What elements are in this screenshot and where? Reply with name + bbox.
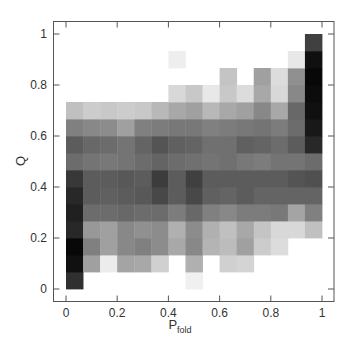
heatmap-cell (168, 119, 185, 136)
heatmap-cell (288, 221, 305, 238)
heatmap-cell (83, 153, 100, 170)
heatmap-cell (185, 221, 202, 238)
heatmap-cell (288, 102, 305, 119)
heatmap-cell (66, 102, 83, 119)
heatmap-cell (254, 153, 271, 170)
heatmap-cell (305, 187, 322, 204)
y-axis-label: Q (13, 156, 28, 166)
heatmap-cell (271, 221, 288, 238)
heatmap-cells (66, 34, 322, 289)
heatmap-cell (168, 51, 185, 68)
heatmap-cell (83, 238, 100, 255)
heatmap-cell (117, 204, 134, 221)
heatmap-cell (288, 153, 305, 170)
heatmap-cell (203, 85, 220, 102)
y-tick-label: 0 (40, 282, 47, 296)
heatmap-cell (134, 102, 151, 119)
heatmap-cell (305, 34, 322, 51)
heatmap-cell (168, 102, 185, 119)
heatmap-cell (83, 119, 100, 136)
heatmap-cell (305, 51, 322, 68)
heatmap-cell (100, 153, 117, 170)
heatmap-cell (254, 119, 271, 136)
heatmap-cell (117, 170, 134, 187)
heatmap-cell (185, 187, 202, 204)
heatmap-cell (271, 119, 288, 136)
heatmap-chart: 00.20.40.60.81 00.20.40.60.81 Pfold Q (0, 0, 354, 350)
heatmap-cell (220, 85, 237, 102)
heatmap-cell (185, 170, 202, 187)
heatmap-cell (220, 170, 237, 187)
heatmap-cell (271, 153, 288, 170)
heatmap-cell (254, 204, 271, 221)
heatmap-cell (203, 187, 220, 204)
heatmap-cell (271, 238, 288, 255)
heatmap-cell (288, 68, 305, 85)
heatmap-cell (305, 85, 322, 102)
heatmap-cell (168, 221, 185, 238)
heatmap-cell (288, 170, 305, 187)
heatmap-cell (305, 119, 322, 136)
heatmap-cell (66, 170, 83, 187)
heatmap-cell (66, 255, 83, 272)
heatmap-cell (83, 187, 100, 204)
heatmap-cell (151, 136, 168, 153)
heatmap-cell (66, 153, 83, 170)
heatmap-cell (168, 136, 185, 153)
heatmap-cell (254, 136, 271, 153)
heatmap-cell (151, 153, 168, 170)
heatmap-cell (117, 119, 134, 136)
heatmap-cell (203, 221, 220, 238)
heatmap-cell (168, 187, 185, 204)
heatmap-cell (185, 272, 202, 289)
heatmap-cell (220, 238, 237, 255)
heatmap-cell (254, 238, 271, 255)
heatmap-cell (185, 255, 202, 272)
heatmap-cell (305, 204, 322, 221)
heatmap-cell (203, 238, 220, 255)
heatmap-cell (151, 238, 168, 255)
heatmap-cell (254, 187, 271, 204)
heatmap-cell (288, 51, 305, 68)
heatmap-cell (100, 170, 117, 187)
heatmap-cell (100, 255, 117, 272)
heatmap-cell (83, 204, 100, 221)
heatmap-cell (237, 238, 254, 255)
heatmap-cell (237, 221, 254, 238)
heatmap-cell (185, 136, 202, 153)
y-tick-label: 0.2 (30, 231, 47, 245)
heatmap-cell (83, 221, 100, 238)
heatmap-cell (237, 119, 254, 136)
heatmap-cell (117, 187, 134, 204)
heatmap-cell (305, 221, 322, 238)
heatmap-cell (254, 102, 271, 119)
heatmap-cell (220, 187, 237, 204)
heatmap-cell (271, 136, 288, 153)
heatmap-cell (185, 204, 202, 221)
heatmap-cell (168, 204, 185, 221)
heatmap-cell (220, 68, 237, 85)
heatmap-cell (185, 153, 202, 170)
heatmap-cell (220, 136, 237, 153)
heatmap-cell (66, 119, 83, 136)
heatmap-cell (134, 221, 151, 238)
heatmap-cell (168, 238, 185, 255)
heatmap-cell (100, 119, 117, 136)
heatmap-cell (117, 136, 134, 153)
heatmap-cell (66, 238, 83, 255)
x-tick-label: 0.6 (211, 306, 228, 320)
heatmap-cell (254, 85, 271, 102)
heatmap-cell (305, 68, 322, 85)
heatmap-cell (134, 119, 151, 136)
heatmap-cell (271, 170, 288, 187)
heatmap-cell (168, 153, 185, 170)
heatmap-cell (288, 204, 305, 221)
heatmap-cell (237, 204, 254, 221)
heatmap-cell (288, 136, 305, 153)
heatmap-cell (305, 136, 322, 153)
heatmap-cell (100, 136, 117, 153)
heatmap-cell (66, 272, 83, 289)
heatmap-cell (168, 170, 185, 187)
y-tick-label: 0.4 (30, 180, 47, 194)
heatmap-cell (100, 238, 117, 255)
